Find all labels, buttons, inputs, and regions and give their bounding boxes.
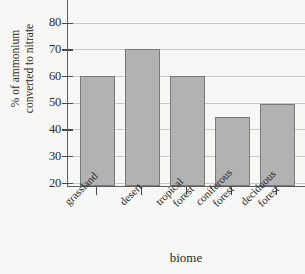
y-tick-mark-60 <box>62 76 73 77</box>
x-axis-title: biome <box>67 250 305 266</box>
y-axis-line <box>67 0 68 187</box>
bar-tropical-forest <box>170 76 205 186</box>
gridline-80 <box>67 23 305 24</box>
bar-chart-figure: 80 70 60 50 40 30 20 grassland desert tr… <box>0 0 305 274</box>
x-tick-mark-1 <box>96 187 97 195</box>
y-tick-mark-80 <box>62 23 73 24</box>
y-tick-mark-20 <box>62 183 73 184</box>
y-tick-mark-40 <box>62 129 73 130</box>
bar-desert <box>125 49 160 186</box>
y-tick-mark-70 <box>62 49 73 50</box>
y-axis-title-container: % of ammonium converted to nitrate <box>0 0 44 190</box>
y-axis-title-line2: converted to nitrate <box>22 24 34 113</box>
bar-grassland <box>80 76 115 186</box>
plot-area <box>67 0 305 187</box>
gridline-70 <box>67 49 305 50</box>
y-axis-title: % of ammonium converted to nitrate <box>9 3 36 135</box>
y-tick-mark-30 <box>62 156 73 157</box>
y-tick-mark-50 <box>62 103 73 104</box>
y-axis-title-line1: % of ammonium <box>9 30 21 107</box>
